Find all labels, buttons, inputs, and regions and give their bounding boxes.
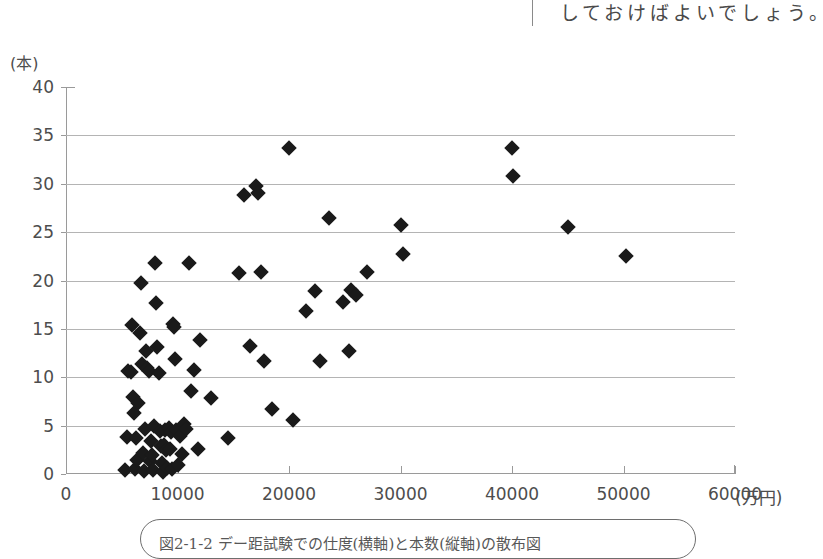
data-point-marker [257,353,273,369]
y-axis-tick-label: 35 [32,125,54,145]
y-axis-tick-mark [61,87,66,88]
y-axis-tick-mark [61,135,66,136]
x-axis-tick-mark [401,466,402,474]
data-point-marker [220,430,236,446]
data-point-marker [312,353,328,369]
data-point-marker [237,188,253,204]
y-axis-tick-mark [61,232,66,233]
x-axis-tick-mark [512,466,513,474]
data-point-marker [147,255,163,271]
y-axis-tick-label: 15 [32,319,54,339]
vertical-rule-divider [532,0,533,26]
gridline [66,329,735,330]
x-axis-tick-mark [624,466,625,474]
y-axis-tick-label: 0 [43,464,54,484]
y-axis-tick-label: 5 [43,416,54,436]
data-point-marker [335,294,351,310]
data-point-marker [186,363,202,379]
y-axis-tick-mark [61,474,66,475]
y-axis-tick-mark [61,184,66,185]
x-axis-tick-mark [735,466,736,474]
data-point-marker [231,265,247,281]
gridline [66,377,735,378]
top-text-block: しておけばよいでしょう。 [0,0,823,40]
data-point-marker [341,343,357,359]
data-point-marker [203,390,219,406]
data-point-marker [618,249,634,265]
gridline [66,281,735,282]
data-point-marker [281,140,297,156]
data-point-marker [321,210,337,226]
top-sentence-text: しておけばよいでしょう。 [560,0,823,25]
figure-caption-capsule: 図2-1-2 デー距試験での仕度(横軸)と本数(縦軸)の散布図 [140,519,696,559]
y-axis-top-cap [66,87,75,88]
x-axis-tick-mark [289,466,290,474]
x-axis-tick-label: 20000 [262,484,316,504]
y-axis-tick-mark [61,281,66,282]
x-axis-unit-label: (万円) [735,484,782,509]
figure-caption-text: 図2-1-2 デー距試験での仕度(横軸)と本数(縦軸)の散布図 [159,532,541,553]
data-point-marker [181,255,197,271]
x-axis-tick-label: 30000 [373,484,427,504]
x-axis-tick-label: 0 [61,484,72,504]
y-axis-tick-mark [61,426,66,427]
data-point-marker [504,140,520,156]
data-point-marker [242,339,258,355]
data-point-marker [307,283,323,299]
y-axis-tick-mark [61,377,66,378]
data-point-marker [359,264,375,280]
x-axis-tick-label: 10000 [150,484,204,504]
data-point-marker [192,333,208,349]
data-point-marker [133,276,149,292]
y-axis-tick-mark [61,329,66,330]
data-point-marker [149,295,165,311]
data-point-marker [393,218,409,234]
plot-area: 0510152025303540 01000020000300004000050… [66,87,735,474]
data-point-marker [190,441,206,457]
gridline [66,184,735,185]
gridline [66,135,735,136]
data-point-marker [298,304,314,320]
data-point-marker [395,247,411,263]
y-axis-tick-label: 10 [32,367,54,387]
data-point-marker [264,401,280,417]
x-axis-tick-label: 50000 [596,484,650,504]
y-axis-tick-label: 30 [32,174,54,194]
y-axis-tick-label: 25 [32,222,54,242]
data-point-marker [183,383,199,399]
data-point-marker [253,264,269,280]
x-axis-tick-label: 40000 [485,484,539,504]
data-point-marker [167,351,183,367]
y-axis-unit-label: (本) [10,50,38,74]
y-axis-tick-label: 20 [32,271,54,291]
scatter-chart: (本) 0510152025303540 0100002000030000400… [0,40,823,510]
data-point-marker [505,168,521,184]
y-axis-tick-label: 40 [32,77,54,97]
